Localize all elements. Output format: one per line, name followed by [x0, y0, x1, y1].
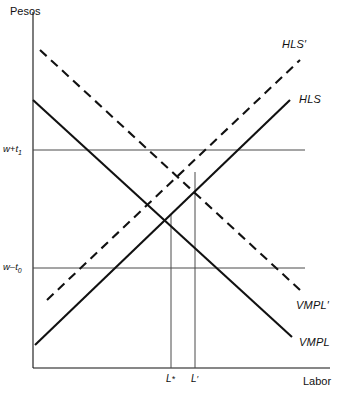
y-tick-label-w-plus-t1: w+t1 — [3, 144, 22, 156]
x-tick-sup-l-star: * — [172, 374, 176, 384]
curve-hls-prime — [47, 60, 300, 300]
labor-market-diagram: Pesos Labor w+t1 w–t0 L* L′ HLS′ HLS VMP… — [0, 0, 358, 396]
curve-label-hls: HLS — [299, 94, 321, 105]
y-tick-base-w-plus-t1: w+t — [3, 143, 18, 154]
curve-vmpl-prime — [40, 50, 300, 290]
x-axis-title: Labor — [303, 376, 331, 387]
x-tick-sup-l-prime: ′ — [197, 374, 199, 384]
x-tick-label-l-prime: L′ — [191, 374, 198, 384]
y-tick-sub-w-plus-t1: 1 — [18, 149, 22, 156]
curve-label-vmpl: VMPL — [299, 337, 330, 348]
x-tick-label-l-star: L* — [166, 374, 175, 384]
y-tick-label-w-minus-t0: w–t0 — [3, 262, 22, 274]
curve-label-vmpl-prime: VMPL′ — [296, 300, 329, 311]
curve-label-hls-prime: HLS′ — [282, 39, 306, 50]
y-tick-sub-w-minus-t0: 0 — [18, 267, 22, 274]
y-axis-title: Pesos — [10, 6, 41, 17]
y-tick-base-w-minus-t0: w–t — [3, 261, 18, 272]
